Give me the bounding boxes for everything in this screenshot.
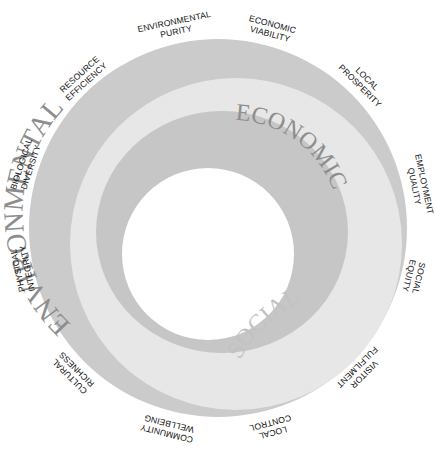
sustainability-rings-diagram: ENVIRONMENTAL ECONOMIC SOCIAL ENVIRONMEN…	[0, 0, 437, 455]
outer-label-social-equity: SOCIAL EQUITY	[400, 259, 427, 296]
outer-label-local-control: LOCAL CONTROL	[248, 413, 295, 443]
outer-label-environmental-purity: ENVIRONMENTAL PURITY	[137, 9, 214, 44]
outer-label-employment-quality: EMPLOYMENT QUALITY	[403, 153, 435, 218]
outer-label-economic-viability: ECONOMIC VIABILITY	[246, 13, 298, 45]
outer-label-community-wellbeing: COMMUNITY WELLBEING	[139, 413, 196, 445]
